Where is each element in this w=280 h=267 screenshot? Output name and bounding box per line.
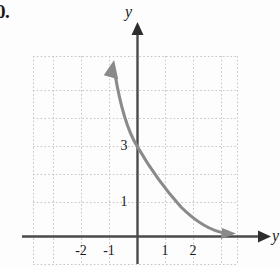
y-tick-label-1: 1 [113, 195, 135, 209]
curve-arrow-up [104, 59, 122, 80]
x-axis-label: y [272, 228, 279, 244]
x-tick-label-2: 2 [182, 244, 204, 258]
x-axis [22, 231, 271, 243]
graph-canvas [0, 0, 280, 267]
y-tick-label-3: 3 [113, 139, 135, 153]
y-axis-label: y [125, 4, 132, 20]
x-tick-label-neg2: -2 [70, 244, 92, 258]
grid-lines [33, 56, 238, 265]
x-tick-label-1: 1 [154, 244, 176, 258]
x-tick-label-neg1: -1 [98, 244, 120, 258]
exponential-graph-figure: 0. [0, 0, 280, 267]
